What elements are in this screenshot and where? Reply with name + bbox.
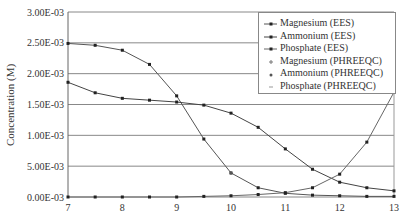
legend-item: Phosphate (PHREEQC) xyxy=(263,79,376,92)
x-tick-label: 9 xyxy=(174,202,179,213)
legend-label: Ammonium (EES) xyxy=(280,30,355,41)
legend-label: Ammonium (PHREEQC) xyxy=(280,67,383,78)
series-phosphate-ees xyxy=(67,91,396,199)
y-tick-label: 3.00E-03 xyxy=(27,7,64,18)
legend-marker-icon xyxy=(263,71,277,78)
y-tick-label: 0.00E-03 xyxy=(27,192,64,203)
legend-label: Magnesium (PHREEQC) xyxy=(280,55,382,66)
series-ammonium-ees xyxy=(67,81,396,193)
y-tick-label: 2.50E-03 xyxy=(27,37,64,48)
y-tick-label: 1.00E-03 xyxy=(27,130,64,141)
x-tick-label: 13 xyxy=(389,202,399,213)
legend-item: Ammonium (PHREEQC) xyxy=(263,66,383,79)
legend-marker-icon xyxy=(263,83,277,90)
legend-item: Phosphate (EES) xyxy=(263,41,348,54)
x-tick-label: 8 xyxy=(120,202,125,213)
series-ammonium-phreeqc xyxy=(230,171,233,174)
legend-item: Ammonium (EES) xyxy=(263,29,355,42)
y-tick-label: 1.50E-03 xyxy=(27,99,64,110)
x-axis-ticks: 78910111213 xyxy=(66,202,400,213)
x-tick-label: 12 xyxy=(335,202,345,213)
legend-label: Phosphate (EES) xyxy=(280,42,348,53)
legend-marker-icon xyxy=(263,45,277,52)
legend-item: Magnesium (EES) xyxy=(263,16,354,29)
x-tick-label: 11 xyxy=(281,202,291,213)
legend-item: Magnesium (PHREEQC) xyxy=(263,54,382,67)
legend-marker-icon xyxy=(263,33,277,40)
legend-label: Magnesium (EES) xyxy=(280,17,354,28)
y-tick-label: 2.00E-03 xyxy=(27,68,64,79)
legend-marker-icon xyxy=(263,58,277,65)
y-axis-label: Concentration (M) xyxy=(4,64,17,147)
legend-label: Phosphate (PHREEQC) xyxy=(280,80,376,91)
x-tick-label: 10 xyxy=(226,202,236,213)
legend: Magnesium (EES)Ammonium (EES)Phosphate (… xyxy=(258,12,396,94)
legend-marker-icon xyxy=(263,20,277,27)
y-tick-label: 5.00E-03 xyxy=(27,161,64,172)
y-axis-ticks: 0.00E-035.00E-031.00E-031.50E-032.00E-03… xyxy=(27,7,64,203)
x-tick-label: 7 xyxy=(66,202,71,213)
